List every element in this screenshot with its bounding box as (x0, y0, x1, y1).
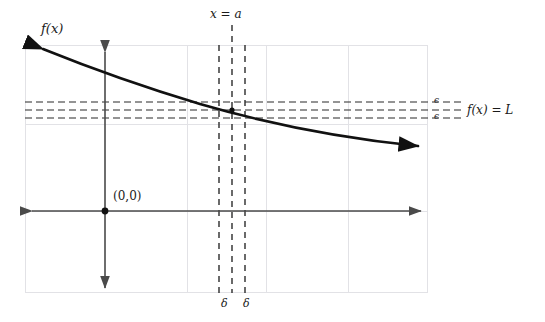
epsilon-lower-label: ϵ (434, 112, 439, 121)
limit-value-label: f(x) = L (467, 104, 513, 116)
limit-point-dot (229, 107, 234, 112)
delta-band-lines (219, 25, 245, 293)
function-label: f(x) (41, 22, 63, 35)
x-equals-a-label: x = a (210, 8, 242, 20)
coordinate-axes (32, 52, 421, 288)
delta-left-label: δ (221, 298, 228, 309)
function-curve (43, 49, 418, 146)
epsilon-upper-label: ϵ (434, 96, 439, 105)
grid-lines (25, 45, 428, 293)
graph-canvas (0, 0, 545, 322)
origin-point-dot (102, 208, 109, 215)
delta-right-label: δ (243, 298, 250, 309)
limit-definition-figure: f(x) x = a (0,0) f(x) = L ϵ ϵ δ δ (0, 0, 545, 322)
origin-label: (0,0) (113, 190, 141, 202)
